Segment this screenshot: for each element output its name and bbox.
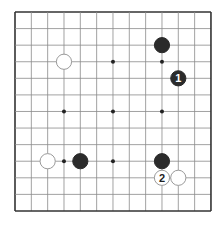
go-board: 12	[0, 0, 223, 225]
white-stone-2: 2	[154, 170, 169, 185]
move-number: 2	[159, 172, 165, 184]
star-point	[111, 159, 115, 163]
white-stone	[40, 154, 55, 169]
star-point	[160, 60, 164, 64]
star-point	[111, 60, 115, 64]
star-point	[62, 109, 66, 113]
star-point	[111, 109, 115, 113]
star-point	[160, 109, 164, 113]
white-stone	[56, 54, 71, 69]
black-stone-1: 1	[171, 71, 186, 86]
black-stone	[154, 38, 169, 53]
black-stone	[154, 154, 169, 169]
star-point	[62, 159, 66, 163]
white-stone	[171, 170, 186, 185]
move-number: 1	[175, 72, 181, 84]
black-stone	[73, 154, 88, 169]
